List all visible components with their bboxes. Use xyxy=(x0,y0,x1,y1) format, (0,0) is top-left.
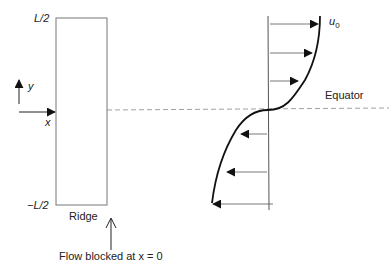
diagram-canvas xyxy=(0,0,389,269)
u0-label: u0 xyxy=(329,15,340,30)
ridge-top-label: L/2 xyxy=(34,12,49,24)
y-axis-label: y xyxy=(28,80,34,92)
ridge-label: Ridge xyxy=(69,210,98,222)
equator-line xyxy=(107,108,389,110)
ridge-rectangle xyxy=(56,18,107,205)
flow-blocked-label: Flow blocked at x = 0 xyxy=(59,250,163,262)
u0-label-subscript: 0 xyxy=(335,21,339,30)
equator-label: Equator xyxy=(325,89,364,101)
ridge-bottom-label: −L/2 xyxy=(27,199,49,211)
profile-axis xyxy=(268,16,269,210)
x-axis-label: x xyxy=(45,116,51,128)
